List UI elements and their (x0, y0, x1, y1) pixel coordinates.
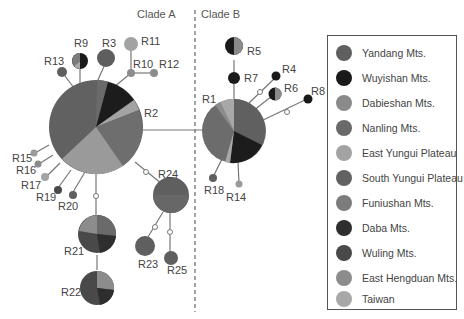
label-R16: R16 (16, 164, 36, 176)
node-R12[interactable] (150, 69, 158, 77)
label-R3: R3 (102, 37, 116, 49)
label-R9: R9 (74, 37, 88, 49)
legend-label: East Hengduan Mts. (362, 272, 457, 284)
legend-label: Dabieshan Mts. (362, 97, 435, 109)
clade-b-label: Clade B (201, 8, 240, 20)
node-R10[interactable] (127, 69, 135, 77)
node-R2[interactable] (49, 80, 143, 174)
node-R13[interactable] (57, 67, 67, 77)
node-R14[interactable] (236, 181, 243, 188)
node-R23[interactable] (135, 236, 155, 256)
label-R11: R11 (141, 35, 160, 47)
node-R22[interactable] (80, 271, 114, 305)
node-R24[interactable] (153, 177, 189, 213)
label-R17: R17 (21, 179, 41, 191)
node-R9[interactable] (72, 53, 88, 69)
legend-item-dabieshan: Dabieshan Mts. (328, 90, 458, 115)
nanling-color-swatch-icon (336, 120, 352, 136)
label-R25: R25 (167, 264, 187, 276)
label-R18: R18 (204, 184, 224, 196)
label-R14: R14 (226, 191, 246, 203)
legend-item-daba: Daba Mts. (328, 215, 458, 240)
node-R4[interactable] (272, 72, 281, 81)
node-R5[interactable] (225, 37, 243, 55)
daba-color-swatch-icon (336, 220, 352, 236)
node-R20[interactable] (69, 191, 77, 199)
label-R24: R24 (158, 168, 178, 180)
south-yungui-color-swatch-icon (336, 170, 352, 186)
node-R7[interactable] (228, 72, 240, 84)
label-R23: R23 (138, 258, 158, 270)
node-R11[interactable] (124, 37, 138, 51)
label-R5: R5 (247, 45, 261, 57)
legend-label: South Yungui Plateau (362, 172, 463, 184)
legend-label: Wuyishan Mts. (362, 72, 431, 84)
node-R25[interactable] (164, 251, 178, 265)
yandang-color-swatch-icon (336, 45, 352, 61)
label-R6: R6 (284, 82, 298, 94)
label-R1: R1 (202, 93, 216, 105)
legend: Yandang Mts. Wuyishan Mts. Dabieshan Mts… (327, 35, 457, 310)
label-R4: R4 (282, 63, 296, 75)
legend-item-wuling: Wuling Mts. (328, 240, 458, 265)
label-R22: R22 (61, 286, 81, 298)
legend-item-nanling: Nanling Mts. (328, 115, 458, 140)
legend-label: East Yungui Plateau (362, 147, 456, 159)
node-R1[interactable] (202, 99, 266, 163)
legend-item-east-yungui: East Yungui Plateau (328, 140, 458, 165)
legend-item-funiushan: Funiushan Mts. (328, 190, 458, 215)
node-R3[interactable] (97, 49, 115, 67)
legend-item-south-yungui: South Yungui Plateau (328, 165, 458, 190)
wuling-color-swatch-icon (336, 245, 352, 261)
east-hengduan-color-swatch-icon (336, 270, 352, 286)
legend-label: Wuling Mts. (362, 247, 417, 259)
label-R7: R7 (244, 72, 258, 84)
legend-label: Nanling Mts. (362, 122, 420, 134)
node-R17[interactable] (41, 173, 49, 181)
taiwan-color-swatch-icon (336, 291, 352, 307)
legend-label: Taiwan (362, 293, 395, 305)
legend-label: Daba Mts. (362, 222, 410, 234)
label-R15: R15 (12, 152, 32, 164)
legend-item-wuyishan: Wuyishan Mts. (328, 65, 458, 90)
label-R20: R20 (58, 200, 78, 212)
node-R6[interactable] (269, 88, 282, 101)
east-yungui-color-swatch-icon (336, 145, 352, 161)
label-R12: R12 (159, 58, 179, 70)
node-R18[interactable] (209, 174, 217, 182)
label-R19: R19 (36, 191, 56, 203)
legend-label: Yandang Mts. (362, 47, 426, 59)
clade-a-label: Clade A (137, 8, 176, 20)
label-R21: R21 (64, 245, 84, 257)
legend-label: Funiushan Mts. (362, 197, 434, 209)
dabieshan-color-swatch-icon (336, 95, 352, 111)
label-R8: R8 (311, 85, 325, 97)
legend-item-taiwan: Taiwan (328, 286, 458, 311)
label-R13: R13 (44, 55, 64, 67)
label-R2: R2 (144, 107, 158, 119)
funiushan-color-swatch-icon (336, 195, 352, 211)
legend-item-yandang: Yandang Mts. (328, 40, 458, 65)
wuyishan-color-swatch-icon (336, 70, 352, 86)
label-R10: R10 (133, 58, 153, 70)
